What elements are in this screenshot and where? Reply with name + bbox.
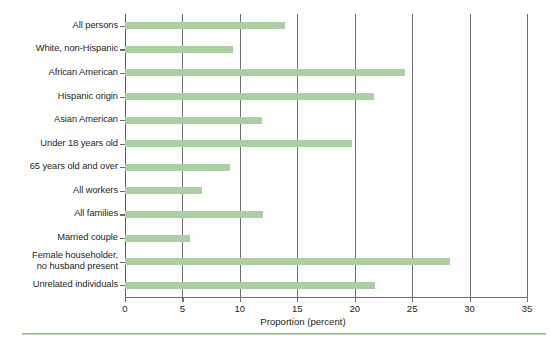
y-axis-tick: [120, 97, 125, 98]
gridline: [355, 14, 356, 297]
x-axis-line: [125, 297, 528, 298]
gridline: [470, 14, 471, 297]
x-axis-tick: [355, 297, 356, 302]
x-axis-tick-label: 15: [282, 303, 312, 314]
x-axis-tick: [527, 297, 528, 302]
y-axis-tick: [120, 191, 125, 192]
bar: [125, 22, 285, 29]
y-axis-tick: [120, 49, 125, 50]
category-label: Unrelated individuals: [0, 279, 118, 290]
gridline: [182, 14, 183, 297]
category-label: All families: [0, 208, 118, 219]
x-axis-tick-label: 35: [512, 303, 542, 314]
bar: [125, 258, 450, 265]
category-label: Hispanic origin: [0, 91, 118, 102]
x-axis-title: Proportion (percent): [0, 316, 551, 327]
y-axis-tick: [120, 144, 125, 145]
x-axis-tick: [182, 297, 183, 302]
y-axis-line: [125, 14, 126, 297]
category-label: Under 18 years old: [0, 138, 118, 149]
x-axis-tick: [125, 297, 126, 302]
x-axis-tick: [240, 297, 241, 302]
x-axis-tick-label: 30: [455, 303, 485, 314]
plot-area: [125, 14, 527, 297]
gridline: [412, 14, 413, 297]
bar: [125, 46, 233, 53]
bar: [125, 211, 263, 218]
category-label: All workers: [0, 185, 118, 196]
y-axis-tick: [120, 214, 125, 215]
x-axis-tick: [297, 297, 298, 302]
x-axis-tick-label: 25: [397, 303, 427, 314]
y-axis-tick: [120, 262, 125, 263]
gridline: [240, 14, 241, 297]
bar: [125, 93, 374, 100]
y-axis-tick: [120, 285, 125, 286]
category-axis-labels: All personsWhite, non-HispanicAfrican Am…: [0, 0, 118, 300]
category-label: Asian American: [0, 114, 118, 125]
category-label: African American: [0, 67, 118, 78]
x-axis-tick: [470, 297, 471, 302]
bar: [125, 235, 190, 242]
x-axis-tick: [412, 297, 413, 302]
bar: [125, 282, 375, 289]
y-axis-tick: [120, 26, 125, 27]
gridline: [297, 14, 298, 297]
x-axis-tick-label: 0: [110, 303, 140, 314]
x-axis-tick-label: 5: [167, 303, 197, 314]
bar: [125, 164, 230, 171]
x-axis-tick-label: 20: [340, 303, 370, 314]
y-axis-tick: [120, 238, 125, 239]
category-label: White, non-Hispanic: [0, 43, 118, 54]
y-axis-tick: [120, 73, 125, 74]
bar: [125, 187, 202, 194]
y-axis-tick: [120, 120, 125, 121]
y-axis-tick: [120, 167, 125, 168]
x-axis-tick-label: 10: [225, 303, 255, 314]
category-label: All persons: [0, 20, 118, 31]
bar: [125, 140, 352, 147]
horizontal-bar-chart: All personsWhite, non-HispanicAfrican Am…: [0, 0, 551, 346]
category-label: 65 years old and over: [0, 161, 118, 172]
category-label: Female householder, no husband present: [0, 250, 118, 272]
footer-rule-secondary: [22, 334, 546, 335]
category-label: Married couple: [0, 232, 118, 243]
bar: [125, 117, 262, 124]
gridline: [527, 14, 528, 297]
bar: [125, 69, 405, 76]
